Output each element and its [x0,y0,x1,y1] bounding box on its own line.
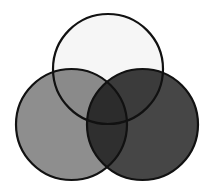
venn-diagram [0,0,213,195]
venn-diagram-svg [0,0,213,195]
